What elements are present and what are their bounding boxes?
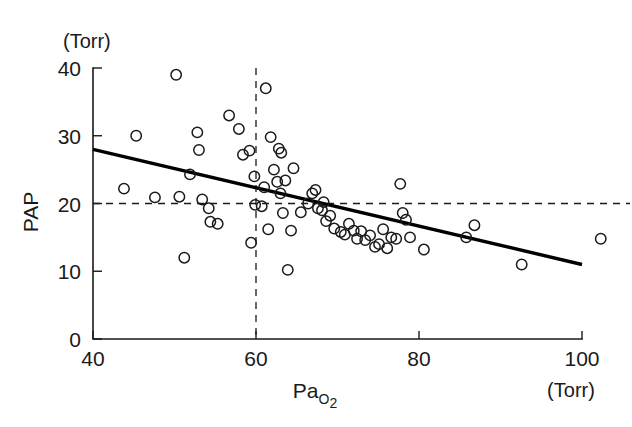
y-axis-title: PAP [19,192,42,232]
text-layer: (Torr) PAP PaO2 (Torr) [0,0,632,427]
scatter-plot-figure: 406080100010203040 (Torr) PAP PaO2 (Torr… [0,0,632,427]
y-axis-unit: (Torr) [63,30,111,52]
x-axis-title: PaO2 [293,379,338,411]
x-axis-title-sub2: 2 [329,395,337,411]
x-axis-unit: (Torr) [547,379,595,401]
x-axis-title-main: Pa [293,379,319,402]
x-axis-title-sub: O [319,391,330,407]
